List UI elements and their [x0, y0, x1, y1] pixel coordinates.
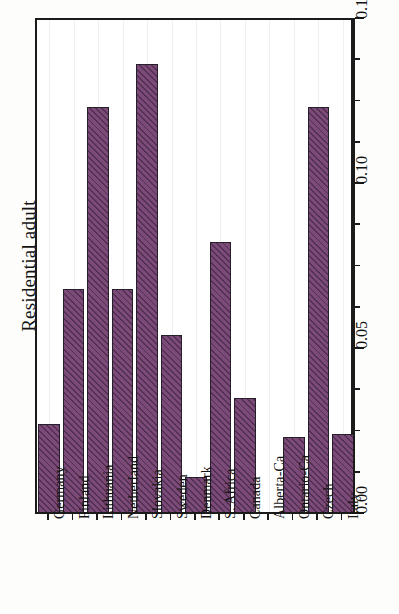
category-tick	[170, 513, 172, 520]
value-axis-minor-tick	[355, 471, 360, 473]
category-tick	[292, 513, 294, 520]
category-label-s-africa: S. Africa	[223, 468, 239, 519]
plot-separator	[196, 20, 197, 513]
value-axis-minor-tick	[355, 100, 360, 102]
chart-figure: Residential adult GermanyFinlandLithuani…	[0, 0, 399, 614]
value-axis-label-0-10: 0.10	[353, 148, 371, 192]
bar-slovakia	[136, 64, 158, 513]
value-axis-minor-tick	[355, 58, 360, 60]
plot-area	[35, 18, 353, 513]
bar-lithuania	[87, 107, 109, 513]
value-axis-label-0-00: 0.00	[353, 478, 371, 522]
category-label-czech: Czech	[321, 484, 337, 519]
category-label-netherland: Netherland	[126, 456, 142, 519]
category-tick	[316, 513, 318, 520]
category-tick	[243, 513, 245, 520]
category-tick	[194, 513, 196, 520]
value-axis-minor-tick	[355, 388, 360, 390]
plot-separator	[269, 20, 270, 513]
value-axis-label-0-05: 0.05	[353, 313, 371, 357]
category-label-lithuania: Lithuania	[101, 464, 117, 519]
category-tick	[145, 513, 147, 520]
value-axis-minor-tick	[355, 265, 360, 267]
category-tick	[72, 513, 74, 520]
category-label-germany: Germany	[52, 466, 68, 519]
category-label-finland: Finland	[77, 476, 93, 519]
value-axis	[353, 18, 355, 513]
value-axis-minor-tick	[355, 430, 360, 432]
category-tick	[218, 513, 220, 520]
category-label-denmark: Denmark	[199, 466, 215, 519]
category-tick	[341, 513, 343, 520]
bar-czech	[308, 107, 330, 513]
value-axis-minor-tick	[355, 141, 360, 143]
category-tick	[96, 513, 98, 520]
category-label-sweden: Sweden	[175, 474, 191, 519]
category-label-alberta-ca: Alberta-Ca	[272, 456, 288, 519]
category-label-ontario-ca: Ontario-Ca	[297, 455, 313, 519]
category-tick	[267, 513, 269, 520]
value-axis-label-0-15: 0.15	[353, 0, 371, 27]
category-label-canada: Canada	[248, 476, 264, 519]
value-axis-minor-tick	[355, 223, 360, 225]
category-tick	[47, 513, 49, 520]
category-tick	[121, 513, 123, 520]
value-axis-minor-tick	[355, 306, 360, 308]
category-label-slovakia: Slovakia	[150, 469, 166, 519]
